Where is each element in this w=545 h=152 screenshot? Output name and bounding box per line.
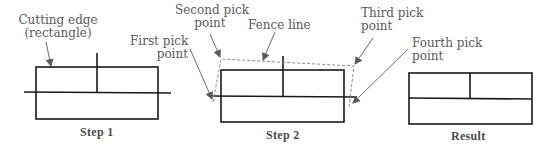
- cutting-edge-leader-arrow: [46, 42, 51, 66]
- fence-line-leader-arrow: [263, 32, 275, 60]
- first-pick-label-line2: point: [130, 48, 188, 61]
- step2-horizontal-line: [211, 96, 357, 97]
- result-caption: Result: [451, 129, 485, 144]
- third-pick-label: Third pick point: [361, 7, 423, 33]
- result-figure: [409, 73, 532, 124]
- step2-figure: [190, 32, 408, 122]
- third-pick-label-line2: point: [361, 20, 423, 33]
- second-pick-label: Second pick point: [175, 4, 245, 30]
- fourth-pick-label-line2: point: [412, 50, 482, 63]
- second-pick-leader-arrow: [210, 34, 220, 57]
- second-pick-label-line2: point: [175, 17, 245, 30]
- first-pick-leader-arrow: [190, 49, 212, 99]
- step2-caption: Step 2: [266, 128, 299, 143]
- cutting-edge-label-line2: (rectangle): [12, 27, 104, 40]
- result-horizontal-line: [409, 98, 532, 99]
- cutting-edge-label: Cutting edge (rectangle): [12, 14, 104, 40]
- first-pick-label: First pick point: [130, 35, 188, 61]
- step1-horizontal-line: [24, 92, 171, 93]
- fourth-pick-label: Fourth pick point: [412, 37, 482, 63]
- fence-line-label: Fence line: [248, 19, 311, 32]
- fourth-pick-leader-arrow: [353, 49, 408, 103]
- step1-caption: Step 1: [80, 125, 113, 140]
- third-pick-leader-arrow: [355, 38, 373, 64]
